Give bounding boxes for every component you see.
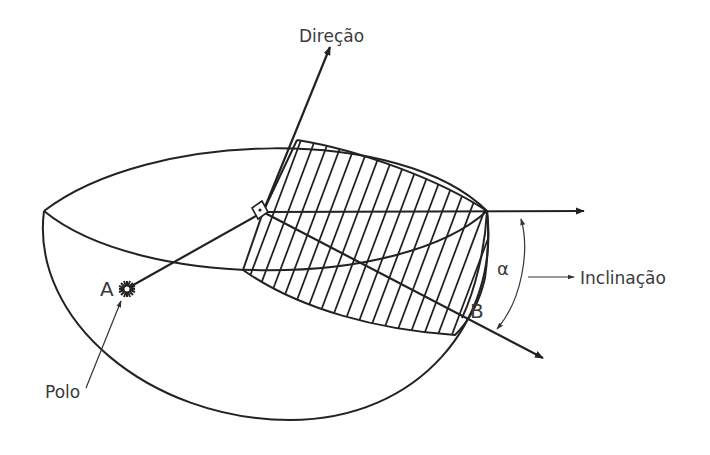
- pole-line: [128, 212, 263, 288]
- dip-arrow: [263, 212, 543, 358]
- label-inclination: Inclinação: [580, 268, 666, 288]
- pole-star-icon: [119, 281, 135, 297]
- hemisphere-bowl: [43, 211, 488, 420]
- label-pole: Polo: [45, 382, 80, 402]
- label-point-b: B: [470, 299, 484, 323]
- pole-pointer-arrow: [86, 301, 121, 388]
- label-point-a: A: [100, 277, 114, 301]
- horizontal-arrow: [263, 211, 584, 212]
- dip-plane-hatch: [226, 100, 554, 340]
- hemisphere-diagram: Direção Inclinação Polo A B α: [0, 0, 710, 455]
- label-alpha: α: [497, 258, 509, 279]
- label-direction: Direção: [299, 26, 364, 46]
